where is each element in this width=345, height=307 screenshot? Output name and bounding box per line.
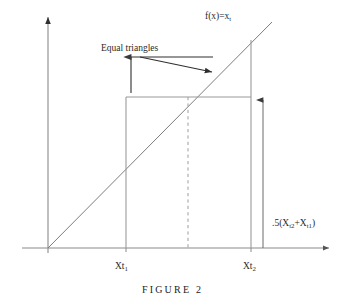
midpoint-suffix: ) [312, 218, 315, 228]
x-tick-label-xt1: Xt1 [115, 262, 128, 273]
x-tick-label-xt1-sub: 1 [125, 265, 128, 272]
x-tick-label-xt2-sub: 2 [253, 265, 256, 272]
function-label: f(x)=xt [205, 12, 231, 23]
figure-caption: FIGURE 2 [0, 285, 345, 295]
function-label-subscript: t [229, 15, 231, 22]
midpoint-plus: +X [294, 218, 306, 228]
function-label-text: f(x)=x [205, 11, 229, 21]
x-tick-label-xt1-main: Xt [115, 261, 125, 271]
figure-drawing [0, 0, 345, 307]
annotation-arrow-right [140, 57, 212, 72]
identity-line [48, 22, 272, 248]
midpoint-label: .5(Xt2+Xt1) [272, 219, 315, 230]
x-tick-label-xt2-main: Xt [243, 261, 253, 271]
midpoint-prefix: .5(X [272, 218, 289, 228]
x-tick-label-xt2: Xt2 [243, 262, 256, 273]
equal-triangles-label: Equal triangles [101, 44, 158, 54]
figure-container: f(x)=xt Equal triangles .5(Xt2+Xt1) Xt1 … [0, 0, 345, 307]
